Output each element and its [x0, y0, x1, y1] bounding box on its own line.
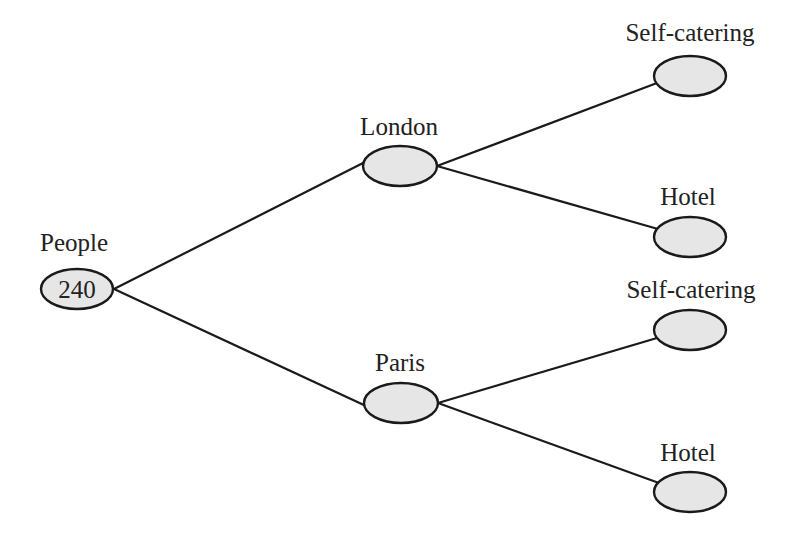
paris-node: [364, 383, 438, 423]
root-label: People: [40, 229, 108, 256]
london-selfcatering-label: Self-catering: [625, 19, 755, 46]
edge-paris-selfcatering: [438, 338, 657, 403]
edge-root-paris: [114, 289, 366, 406]
tree-diagram: People 240 London Self-catering Hotel Pa…: [0, 0, 799, 535]
london-hotel-node: [654, 217, 726, 257]
london-node: [363, 146, 437, 186]
edge-root-london: [114, 162, 365, 289]
paris-selfcatering-label: Self-catering: [626, 276, 756, 303]
root-value: 240: [58, 276, 96, 303]
edge-london-selfcatering: [437, 83, 657, 166]
paris-selfcatering-node: [654, 310, 726, 350]
paris-label: Paris: [375, 349, 425, 376]
london-hotel-label: Hotel: [660, 183, 716, 210]
paris-hotel-node: [654, 472, 726, 512]
london-label: London: [360, 113, 438, 140]
london-selfcatering-node: [654, 56, 726, 96]
paris-hotel-label: Hotel: [660, 439, 716, 466]
edge-london-hotel: [437, 166, 658, 229]
edge-paris-hotel: [438, 403, 659, 483]
